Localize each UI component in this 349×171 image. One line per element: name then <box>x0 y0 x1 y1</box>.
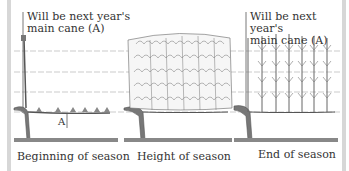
annotation-end: Will be next year's main cane (A) <box>250 11 349 47</box>
caption-beginning: Beginning of season <box>17 150 130 163</box>
panel-height <box>124 33 232 142</box>
annotation-beginning: Will be next year's main cane (A) <box>27 11 130 35</box>
caption-height: Height of season <box>137 150 231 163</box>
diagram-frame: Will be next year's main cane (A) A Will… <box>0 0 349 171</box>
marker-a: A <box>58 116 65 127</box>
caption-end: End of season <box>258 148 336 161</box>
